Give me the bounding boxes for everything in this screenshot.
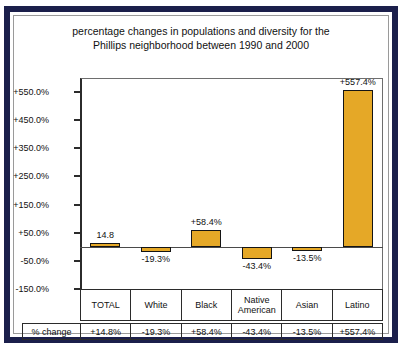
data-table-cell: -13.5%: [282, 324, 332, 339]
data-table-row: % change +14.8%-19.3%+58.4%-43.4%-13.5%+…: [22, 323, 383, 340]
category-header-cell: Native American: [232, 290, 282, 320]
category-header-cell: Latino: [333, 290, 382, 320]
category-axis-row: TOTALWhiteBlackNative AmericanAsianLatin…: [80, 289, 383, 321]
y-axis-tick-label: +150.0%: [0, 200, 49, 210]
plot-area: [80, 78, 383, 289]
data-table-cell: +557.4%: [333, 324, 382, 339]
y-axis-tick-label: +50.0%: [0, 228, 49, 238]
data-table-cell: -19.3%: [131, 324, 181, 339]
chart-title: percentage changes in populations and di…: [14, 24, 388, 52]
chart-title-line-1: percentage changes in populations and di…: [14, 24, 388, 38]
y-axis-tick-label: -50.0%: [0, 256, 49, 266]
bar: [343, 90, 373, 247]
chart-frame-white-mat: percentage changes in populations and di…: [10, 12, 392, 337]
y-axis-tick-label: +550.0%: [0, 87, 49, 97]
bar-value-label: -13.5%: [293, 253, 322, 263]
bar-value-label: +58.4%: [191, 217, 222, 227]
data-row-label: % change: [23, 324, 81, 339]
chart-canvas: percentage changes in populations and di…: [13, 15, 389, 334]
y-axis-tick-label: +450.0%: [0, 115, 49, 125]
category-header-cell: TOTAL: [81, 290, 131, 320]
chart-outer-frame: percentage changes in populations and di…: [4, 6, 398, 343]
bar-value-label: +557.4%: [340, 77, 376, 87]
bar: [141, 247, 171, 252]
bar: [191, 230, 221, 246]
category-header-cell: White: [131, 290, 181, 320]
data-table-cell: -43.4%: [232, 324, 282, 339]
category-header-cell: Asian: [282, 290, 332, 320]
y-axis-tick-label: -150.0%: [0, 284, 49, 294]
bar-value-label: -43.4%: [242, 261, 271, 271]
bar: [90, 243, 120, 247]
bar: [292, 247, 322, 251]
y-axis-tick-label: +250.0%: [0, 171, 49, 181]
y-axis-tick-label: +350.0%: [0, 143, 49, 153]
zero-baseline: [80, 247, 383, 248]
bar-value-label: 14.8: [96, 230, 114, 240]
bar-value-label: -19.3%: [141, 254, 170, 264]
bar: [242, 247, 272, 259]
category-header-cell: Black: [182, 290, 232, 320]
chart-title-line-2: Phillips neighborhood between 1990 and 2…: [14, 38, 388, 52]
data-table-cell: +58.4%: [182, 324, 232, 339]
data-table-cell: +14.8%: [81, 324, 131, 339]
